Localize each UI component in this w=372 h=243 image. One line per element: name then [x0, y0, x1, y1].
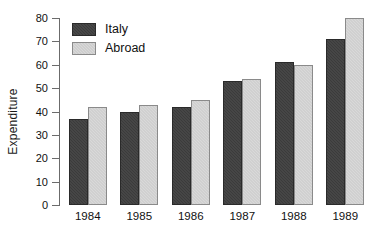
y-tick-mark: [52, 112, 59, 113]
legend-swatch-abroad-icon: [72, 42, 96, 55]
bar-group: [275, 18, 313, 205]
x-tick-label: 1989: [320, 210, 370, 222]
bar-italy-1985: [120, 112, 139, 206]
y-tick-label: 80: [26, 12, 48, 24]
legend-label-abroad: Abroad: [105, 42, 145, 55]
bar-abroad-1987: [242, 79, 261, 205]
bar-italy-1986: [172, 107, 191, 205]
bar-abroad-1984: [88, 107, 107, 205]
y-tick-mark: [52, 41, 59, 42]
y-tick-mark: [52, 182, 59, 183]
y-tick-label: 50: [26, 82, 48, 94]
y-tick-label: 0: [26, 199, 48, 211]
y-tick-mark: [52, 135, 59, 136]
legend-swatch-italy-icon: [72, 23, 96, 36]
bar-group: [326, 18, 364, 205]
y-tick-mark: [52, 65, 59, 66]
x-tick-label: 1987: [217, 210, 267, 222]
bar-abroad-1988: [294, 65, 313, 205]
bar-italy-1989: [326, 39, 345, 205]
y-tick-label: 10: [26, 176, 48, 188]
x-tick-label: 1988: [269, 210, 319, 222]
y-tick-label: 20: [26, 152, 48, 164]
y-tick-mark: [52, 88, 59, 89]
bar-abroad-1986: [191, 100, 210, 205]
bar-chart: Expenditure 01020304050607080 1984198519…: [0, 0, 372, 243]
x-tick-label: 1984: [63, 210, 113, 222]
y-tick-mark: [52, 158, 59, 159]
legend-item-abroad: Abroad: [72, 39, 145, 58]
bar-italy-1988: [275, 62, 294, 205]
y-tick-mark: [52, 18, 59, 19]
legend-label-italy: Italy: [105, 23, 128, 36]
bar-group: [172, 18, 210, 205]
bar-italy-1984: [69, 119, 88, 205]
bar-abroad-1985: [139, 105, 158, 206]
bar-abroad-1989: [345, 18, 364, 205]
legend: Italy Abroad: [72, 20, 145, 58]
bar-italy-1987: [223, 81, 242, 205]
y-tick-label: 70: [26, 35, 48, 47]
y-tick-mark: [52, 205, 59, 206]
bar-group: [223, 18, 261, 205]
y-tick-label: 30: [26, 129, 48, 141]
y-tick-label: 40: [26, 106, 48, 118]
x-tick-label: 1985: [114, 210, 164, 222]
y-tick-label: 60: [26, 59, 48, 71]
x-tick-label: 1986: [166, 210, 216, 222]
y-axis-title: Expenditure: [2, 0, 24, 243]
legend-item-italy: Italy: [72, 20, 145, 39]
